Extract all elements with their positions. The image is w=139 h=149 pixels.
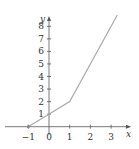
x-tick-label: −1: [22, 132, 35, 142]
y-tick-label: 3: [38, 84, 44, 94]
y-tick-label: 8: [38, 21, 44, 31]
y-tick-label: 6: [38, 46, 44, 56]
y-tick-label: 4: [38, 72, 44, 82]
y-axis-arrow-icon: [47, 16, 51, 21]
x-tick-label: 3: [108, 132, 114, 142]
x-tick-label: 1: [67, 132, 73, 142]
y-tick-label: 2: [38, 97, 44, 107]
x-ticks: −10123: [22, 125, 115, 142]
x-tick-label: 2: [88, 132, 94, 142]
x-axis-label: x: [126, 129, 131, 139]
chart: x y −10123 12345678: [0, 0, 139, 149]
y-tick-label: 7: [38, 34, 44, 44]
data-point-start: [27, 125, 30, 128]
x-tick-label: 0: [46, 132, 52, 142]
y-tick-label: 5: [38, 59, 44, 69]
